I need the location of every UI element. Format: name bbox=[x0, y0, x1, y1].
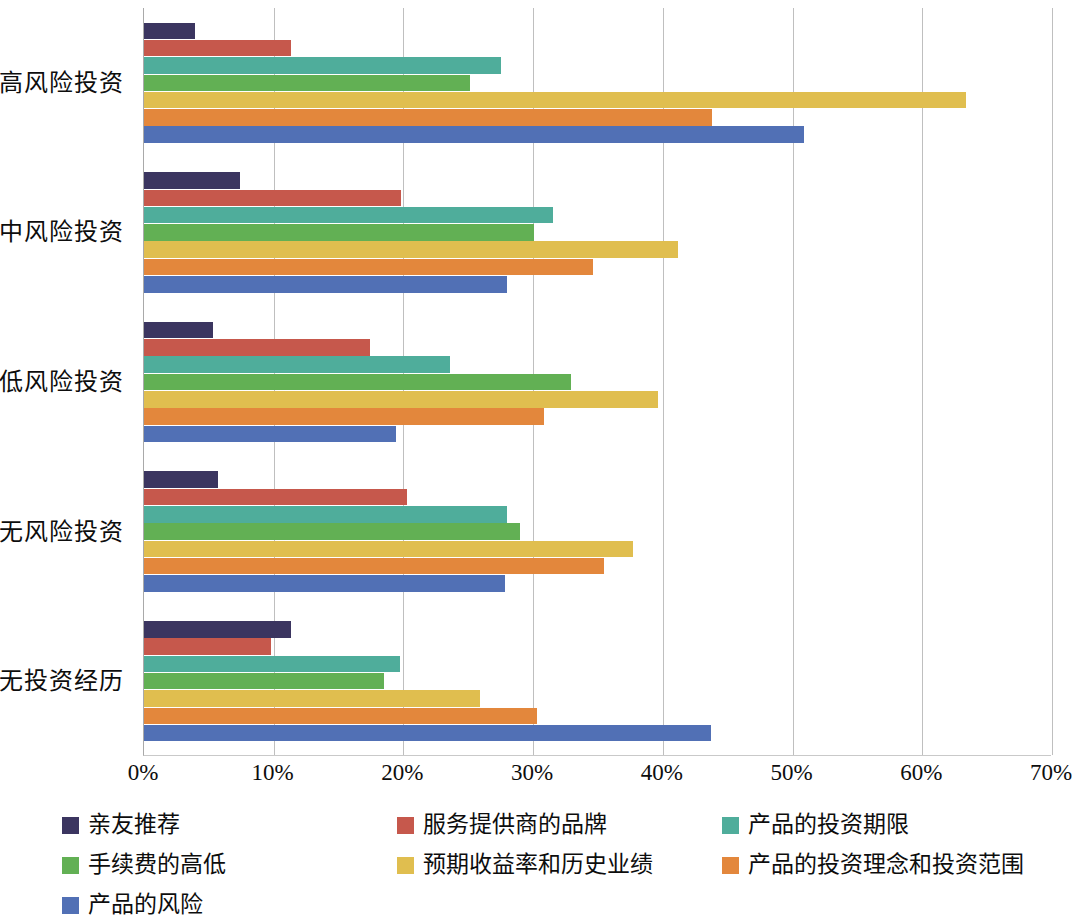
bar-低风险投资-手续费的高低 bbox=[144, 374, 571, 391]
bar-fill bbox=[144, 725, 711, 742]
bar-中风险投资-服务提供商的品牌 bbox=[144, 190, 401, 207]
x-axis-tick-30pct: 30% bbox=[511, 758, 553, 788]
bar-group bbox=[144, 307, 1051, 457]
bar-无风险投资-预期收益率和历史业绩 bbox=[144, 541, 633, 558]
bar-fill bbox=[144, 75, 470, 92]
bar-中风险投资-预期收益率和历史业绩 bbox=[144, 241, 678, 258]
bar-fill bbox=[144, 23, 195, 40]
bar-中风险投资-亲友推荐 bbox=[144, 172, 240, 189]
bar-fill bbox=[144, 57, 501, 74]
legend-item-亲友推荐[interactable]: 亲友推荐 bbox=[62, 812, 180, 838]
bar-group bbox=[144, 606, 1051, 756]
bar-无投资经历-服务提供商的品牌 bbox=[144, 638, 271, 655]
bar-高风险投资-产品的风险 bbox=[144, 126, 804, 143]
bar-fill bbox=[144, 241, 678, 258]
y-axis-label-无投资经历: 无投资经历 bbox=[0, 667, 124, 695]
bar-高风险投资-预期收益率和历史业绩 bbox=[144, 92, 966, 109]
bar-groups bbox=[144, 8, 1051, 755]
bar-无风险投资-亲友推荐 bbox=[144, 471, 218, 488]
bar-fill bbox=[144, 506, 507, 523]
bar-低风险投资-产品的风险 bbox=[144, 426, 396, 443]
x-axis-tick-40pct: 40% bbox=[641, 758, 683, 788]
legend-item-产品的投资期限[interactable]: 产品的投资期限 bbox=[722, 812, 909, 838]
bar-fill bbox=[144, 489, 407, 506]
bar-高风险投资-亲友推荐 bbox=[144, 23, 195, 40]
legend-swatch-icon bbox=[397, 857, 414, 874]
bar-fill bbox=[144, 621, 291, 638]
bar-无投资经历-预期收益率和历史业绩 bbox=[144, 690, 480, 707]
x-axis-tick-50pct: 50% bbox=[770, 758, 812, 788]
bar-group bbox=[144, 8, 1051, 158]
legend-item-产品的投资理念和投资范围[interactable]: 产品的投资理念和投资范围 bbox=[722, 852, 1024, 878]
bar-fill bbox=[144, 690, 480, 707]
legend-swatch-icon bbox=[62, 857, 79, 874]
bar-无风险投资-产品的风险 bbox=[144, 575, 505, 592]
bar-无风险投资-服务提供商的品牌 bbox=[144, 489, 407, 506]
bar-中风险投资-手续费的高低 bbox=[144, 224, 534, 241]
bar-fill bbox=[144, 673, 384, 690]
bar-group bbox=[144, 457, 1051, 607]
bar-fill bbox=[144, 126, 804, 143]
bar-无投资经历-产品的投资理念和投资范围 bbox=[144, 708, 537, 725]
bar-fill bbox=[144, 276, 507, 293]
legend-item-服务提供商的品牌[interactable]: 服务提供商的品牌 bbox=[397, 812, 607, 838]
legend-swatch-icon bbox=[722, 857, 739, 874]
bar-无投资经历-亲友推荐 bbox=[144, 621, 291, 638]
bar-fill bbox=[144, 408, 544, 425]
bar-fill bbox=[144, 656, 400, 673]
legend-label: 产品的投资理念和投资范围 bbox=[748, 852, 1024, 878]
legend-swatch-icon bbox=[722, 817, 739, 834]
legend-label: 服务提供商的品牌 bbox=[423, 812, 607, 838]
bar-高风险投资-服务提供商的品牌 bbox=[144, 40, 291, 57]
bar-fill bbox=[144, 109, 712, 126]
bar-fill bbox=[144, 374, 571, 391]
y-axis-label-中风险投资: 中风险投资 bbox=[0, 218, 124, 246]
plot-area bbox=[143, 8, 1051, 756]
bar-fill bbox=[144, 541, 633, 558]
legend-item-手续费的高低[interactable]: 手续费的高低 bbox=[62, 852, 226, 878]
legend-label: 产品的投资期限 bbox=[748, 812, 909, 838]
bar-无风险投资-手续费的高低 bbox=[144, 523, 520, 540]
y-axis-label-高风险投资: 高风险投资 bbox=[0, 69, 124, 97]
bar-fill bbox=[144, 339, 370, 356]
bar-低风险投资-产品的投资理念和投资范围 bbox=[144, 408, 544, 425]
legend-swatch-icon bbox=[62, 817, 79, 834]
bar-无投资经历-手续费的高低 bbox=[144, 673, 384, 690]
chart-legend: 亲友推荐服务提供商的品牌产品的投资期限手续费的高低预期收益率和历史业绩产品的投资… bbox=[62, 812, 1062, 916]
bar-无风险投资-产品的投资期限 bbox=[144, 506, 507, 523]
legend-label: 预期收益率和历史业绩 bbox=[423, 852, 653, 878]
bar-fill bbox=[144, 523, 520, 540]
bar-高风险投资-手续费的高低 bbox=[144, 75, 470, 92]
bar-group bbox=[144, 158, 1051, 308]
bar-fill bbox=[144, 40, 291, 57]
bar-fill bbox=[144, 172, 240, 189]
bar-高风险投资-产品的投资理念和投资范围 bbox=[144, 109, 712, 126]
bar-fill bbox=[144, 356, 450, 373]
gridline-70pct bbox=[1052, 8, 1053, 755]
legend-label: 手续费的高低 bbox=[88, 852, 226, 878]
x-axis-tick-60pct: 60% bbox=[900, 758, 942, 788]
bar-fill bbox=[144, 207, 553, 224]
bar-无风险投资-产品的投资理念和投资范围 bbox=[144, 558, 604, 575]
bar-无投资经历-产品的风险 bbox=[144, 725, 711, 742]
x-axis-tick-10pct: 10% bbox=[252, 758, 294, 788]
legend-label: 产品的风险 bbox=[88, 892, 203, 918]
bar-低风险投资-服务提供商的品牌 bbox=[144, 339, 370, 356]
legend-item-预期收益率和历史业绩[interactable]: 预期收益率和历史业绩 bbox=[397, 852, 653, 878]
bar-低风险投资-产品的投资期限 bbox=[144, 356, 450, 373]
bar-低风险投资-亲友推荐 bbox=[144, 322, 213, 339]
legend-label: 亲友推荐 bbox=[88, 812, 180, 838]
x-axis-tick-0pct: 0% bbox=[128, 758, 159, 788]
bar-fill bbox=[144, 708, 537, 725]
bar-fill bbox=[144, 92, 966, 109]
bar-fill bbox=[144, 471, 218, 488]
bar-无投资经历-产品的投资期限 bbox=[144, 656, 400, 673]
bar-fill bbox=[144, 322, 213, 339]
bar-中风险投资-产品的投资期限 bbox=[144, 207, 553, 224]
bar-低风险投资-预期收益率和历史业绩 bbox=[144, 391, 658, 408]
legend-swatch-icon bbox=[397, 817, 414, 834]
bar-中风险投资-产品的投资理念和投资范围 bbox=[144, 259, 593, 276]
legend-item-产品的风险[interactable]: 产品的风险 bbox=[62, 892, 203, 918]
x-axis-tick-20pct: 20% bbox=[381, 758, 423, 788]
